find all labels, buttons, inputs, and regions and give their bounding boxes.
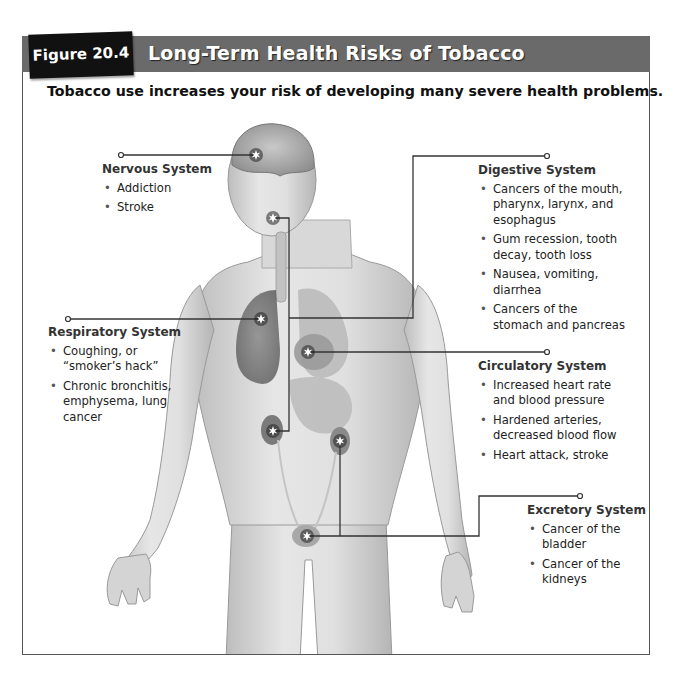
circulatory-system-label: Circulatory System Increased heart rate …: [478, 359, 633, 467]
figure-number: Figure 20.4: [29, 43, 134, 65]
system-name: Circulatory System: [478, 359, 633, 375]
figure-number-tab: Figure 20.4: [28, 31, 133, 79]
effect-item: Increased heart rate and blood pressure: [478, 378, 633, 409]
effect-item: Cancer of the bladder: [527, 522, 637, 553]
effect-item: Hardened arteries, decreased blood flow: [478, 413, 633, 444]
system-name: Digestive System: [478, 163, 628, 179]
figure-subtitle: Tobacco use increases your risk of devel…: [47, 83, 663, 99]
effects-list: Cancer of the bladder Cancer of the kidn…: [527, 522, 637, 588]
effect-item: Cancers of the mouth, pharynx, larynx, a…: [478, 182, 628, 229]
effects-list: Cancers of the mouth, pharynx, larynx, a…: [478, 182, 628, 334]
effect-item: Heart attack, stroke: [478, 448, 633, 464]
system-name: Nervous System: [102, 162, 222, 178]
respiratory-system-label: Respiratory System Coughing, or “smoker’…: [48, 325, 178, 429]
effect-item: Chronic bronchitis, emphysema, lung canc…: [48, 379, 178, 426]
system-name: Respiratory System: [48, 325, 178, 341]
effects-list: Coughing, or “smoker’s hack” Chronic bro…: [48, 344, 178, 426]
nervous-system-label: Nervous System Addiction Stroke: [102, 162, 222, 220]
effect-item: Cancers of the stomach and pancreas: [478, 302, 628, 333]
effect-item: Cancer of the kidneys: [527, 557, 637, 588]
effect-item: Coughing, or “smoker’s hack”: [48, 344, 178, 375]
digestive-system-label: Digestive System Cancers of the mouth, p…: [478, 163, 628, 337]
excretory-system-label: Excretory System Cancer of the bladder C…: [527, 503, 637, 592]
effect-item: Nausea, vomiting, diarrhea: [478, 267, 628, 298]
effect-item: Gum recession, tooth decay, tooth loss: [478, 232, 628, 263]
effect-item: Addiction: [102, 181, 222, 197]
effect-item: Stroke: [102, 200, 222, 216]
effects-list: Addiction Stroke: [102, 181, 222, 216]
system-name: Excretory System: [527, 503, 637, 519]
effects-list: Increased heart rate and blood pressure …: [478, 378, 633, 464]
figure-title: Long-Term Health Risks of Tobacco: [148, 42, 525, 64]
